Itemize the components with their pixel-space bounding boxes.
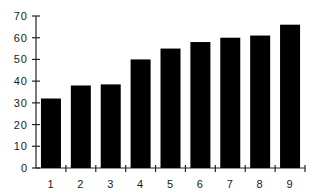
x-tick-label: 5 — [167, 178, 174, 190]
x-axis: 123456789 — [36, 165, 305, 190]
x-tick-label: 8 — [257, 178, 264, 190]
bar-chart: 010203040506070 123456789 — [0, 0, 318, 195]
y-tick-label: 60 — [14, 32, 28, 44]
y-axis: 010203040506070 — [14, 10, 40, 174]
x-tick-label: 3 — [107, 178, 114, 190]
y-tick-label: 20 — [14, 119, 28, 131]
bar-2 — [71, 85, 91, 168]
bar-7 — [220, 38, 240, 168]
y-tick-label: 50 — [14, 53, 28, 65]
x-tick-label: 4 — [137, 178, 144, 190]
y-tick-label: 70 — [14, 10, 28, 22]
bar-3 — [101, 84, 121, 168]
bar-9 — [280, 25, 300, 168]
bar-4 — [131, 59, 151, 168]
bar-1 — [41, 99, 61, 168]
bar-8 — [250, 36, 270, 168]
bar-6 — [190, 42, 210, 168]
x-tick-label: 6 — [197, 178, 204, 190]
x-tick-label: 1 — [47, 178, 54, 190]
bars — [41, 25, 300, 168]
bar-5 — [161, 49, 181, 168]
y-tick-label: 0 — [21, 162, 28, 174]
x-tick-label: 2 — [77, 178, 84, 190]
y-tick-label: 10 — [14, 140, 28, 152]
x-tick-label: 9 — [286, 178, 293, 190]
x-tick-label: 7 — [227, 178, 234, 190]
y-tick-label: 40 — [14, 75, 28, 87]
y-tick-label: 30 — [14, 97, 28, 109]
